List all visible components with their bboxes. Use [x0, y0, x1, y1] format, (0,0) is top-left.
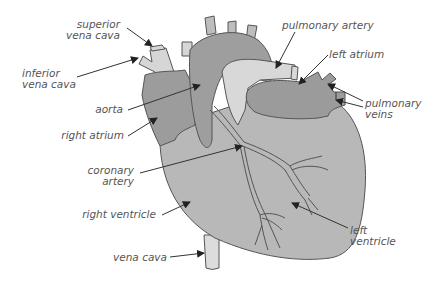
- label-left-ventricle: left ventricle: [350, 225, 396, 247]
- label-inferior-vena-cava: inferior vena cava: [22, 68, 76, 90]
- label-pulmonary-veins: pulmonary veins: [365, 98, 422, 120]
- label-line: vena cava: [22, 79, 76, 90]
- label-aorta: aorta: [60, 104, 123, 115]
- label-line: veins: [365, 109, 422, 120]
- label-vena-cava: vena cava: [100, 252, 167, 263]
- label-right-atrium: right atrium: [40, 130, 124, 141]
- label-coronary-artery: coronary artery: [60, 165, 134, 187]
- heart-diagram: superior vena cava inferior vena cava ao…: [0, 0, 437, 283]
- label-line: vena cava: [64, 30, 120, 41]
- label-pulmonary-artery: pulmonary artery: [282, 20, 374, 31]
- label-line: artery: [60, 176, 134, 187]
- label-left-atrium: left atrium: [329, 49, 384, 60]
- vena-cava-bottom: [204, 235, 219, 270]
- label-superior-vena-cava: superior vena cava: [64, 19, 120, 41]
- label-right-ventricle: right ventricle: [60, 209, 156, 220]
- label-line: ventricle: [350, 236, 396, 247]
